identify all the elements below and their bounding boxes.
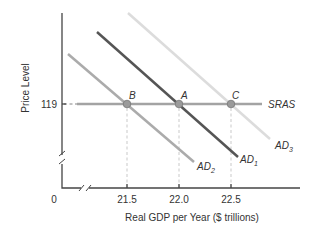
point-b xyxy=(123,100,131,108)
ad3-curve xyxy=(128,13,270,139)
guide-lines xyxy=(64,104,231,187)
chart: B A C SRAS AD1 AD2 AD3 119 0 21.5 22.0 2… xyxy=(0,0,311,233)
y-tick-119: 119 xyxy=(41,99,57,110)
ad3-label: AD3 xyxy=(274,140,293,153)
x-tick-22-0: 22.0 xyxy=(169,194,189,205)
y-axis-title: Price Level xyxy=(20,63,31,112)
point-c-label: C xyxy=(232,90,240,101)
ad2-curve xyxy=(68,54,194,162)
x-tick-0: 0 xyxy=(51,194,57,205)
point-c xyxy=(227,100,235,108)
point-a xyxy=(175,100,183,108)
point-a-label: A xyxy=(180,90,188,101)
point-b-label: B xyxy=(129,90,136,101)
ad2-label: AD2 xyxy=(196,161,215,174)
sras-label: SRAS xyxy=(268,99,296,110)
x-tick-22-5: 22.5 xyxy=(221,194,241,205)
x-axis-title: Real GDP per Year ($ trillions) xyxy=(125,212,259,223)
ad1-label: AD1 xyxy=(239,154,258,167)
x-tick-21-5: 21.5 xyxy=(117,194,137,205)
